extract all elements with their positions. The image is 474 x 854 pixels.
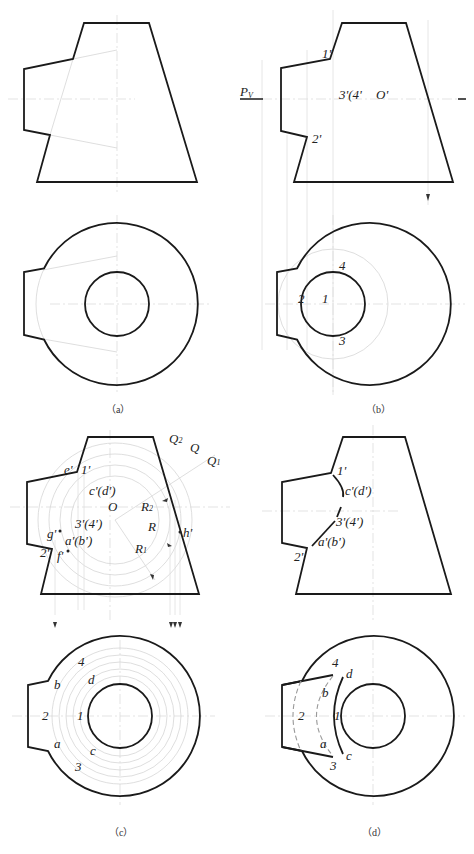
label-2: 2 bbox=[298, 291, 305, 306]
panel-d-front-view: 1' c'(d') 3'(4') a'(b') 2' bbox=[262, 425, 451, 620]
label-4: 4 bbox=[339, 258, 346, 273]
label-3-4-prime: 3'(4') bbox=[74, 516, 102, 531]
label-2: 2 bbox=[42, 708, 49, 723]
label-Q1: Q1 bbox=[207, 453, 220, 468]
label-f-prime: f' bbox=[57, 548, 64, 563]
label-1-prime: 1' bbox=[322, 46, 332, 61]
label-d: d bbox=[346, 666, 353, 681]
label-Q: Q bbox=[190, 440, 200, 455]
label-O-prime: O' bbox=[376, 87, 388, 102]
label-c-d-prime: c'(d') bbox=[89, 483, 116, 498]
label-3: 3 bbox=[338, 333, 346, 348]
label-O: O bbox=[108, 499, 118, 514]
arrow-down-icon bbox=[53, 622, 57, 628]
panel-b-front-view: 1' 2' 3'(4' O' PV bbox=[239, 10, 466, 395]
panel-b: 1' 2' 3'(4' O' PV 4 2 1 3 （b） bbox=[239, 10, 466, 415]
arrow-R-icon bbox=[167, 543, 172, 547]
label-b: b bbox=[322, 685, 329, 700]
label-R1: R1 bbox=[134, 541, 147, 556]
label-b: b bbox=[54, 677, 61, 692]
arrow-R2-icon bbox=[162, 498, 168, 502]
arrow-down-icon bbox=[426, 194, 430, 201]
arrow-R1-icon bbox=[150, 574, 154, 580]
label-a-b-prime: a'(b') bbox=[318, 534, 345, 549]
label-R: R bbox=[147, 519, 156, 534]
front-view-outline bbox=[282, 437, 451, 594]
panel-c: e' 1' c'(d') O R2 R R1 3'(4') g' a'(b') … bbox=[10, 430, 230, 838]
arrow-down-icon bbox=[178, 622, 182, 628]
panel-c-top-view: 4 b d 2 1 a c 3 bbox=[12, 622, 215, 805]
panel-b-top-view: 4 2 1 3 bbox=[265, 215, 465, 395]
label-3-4-prime: 3'(4') bbox=[335, 514, 363, 529]
label-e-prime: e' bbox=[64, 462, 73, 477]
label-c-d-prime: c'(d') bbox=[345, 483, 372, 498]
point-g bbox=[59, 530, 62, 533]
label-d: d bbox=[88, 672, 95, 687]
panel-d-top-view: 4 d b 2 1 a c 3 bbox=[265, 636, 465, 805]
front-view-outline bbox=[24, 23, 197, 182]
label-Q2: Q2 bbox=[169, 431, 182, 446]
label-a-b-prime: a'(b') bbox=[65, 533, 92, 548]
arrow-down-icon bbox=[173, 622, 177, 628]
label-g-prime: g' bbox=[47, 526, 57, 541]
label-Pv: PV bbox=[239, 84, 254, 100]
label-c: c bbox=[346, 748, 352, 763]
label-3: 3 bbox=[329, 758, 337, 773]
panel-c-front-view: e' 1' c'(d') O R2 R R1 3'(4') g' a'(b') … bbox=[10, 430, 230, 620]
label-c: c bbox=[90, 743, 96, 758]
caption-c: （c） bbox=[109, 827, 133, 838]
label-h-prime: h' bbox=[183, 525, 193, 540]
label-1-prime: 1' bbox=[337, 463, 347, 478]
label-2-prime: 2' bbox=[294, 549, 304, 564]
caption-b: （b） bbox=[366, 404, 391, 415]
label-1: 1 bbox=[77, 708, 84, 723]
label-2-prime: 2' bbox=[40, 545, 50, 560]
label-R2: R2 bbox=[140, 499, 153, 514]
point-f bbox=[67, 550, 70, 553]
arrow-down-icon bbox=[169, 622, 173, 628]
caption-a: （a） bbox=[106, 404, 130, 415]
label-3: 3 bbox=[74, 759, 82, 774]
label-1: 1 bbox=[322, 291, 329, 306]
panel-a-top-view bbox=[24, 215, 212, 395]
label-a: a bbox=[320, 736, 327, 751]
point-h bbox=[179, 531, 182, 534]
caption-d: （d） bbox=[362, 827, 387, 838]
panel-a-front-view bbox=[8, 15, 197, 195]
label-1-prime: 1' bbox=[81, 462, 91, 477]
panel-a: （a） bbox=[8, 15, 212, 415]
label-1: 1 bbox=[334, 708, 341, 723]
intersection-curve-upper bbox=[333, 475, 343, 497]
label-3-4-prime: 3'(4' bbox=[338, 87, 362, 102]
panel-d: 1' c'(d') 3'(4') a'(b') 2' 4 d b 2 1 a c… bbox=[262, 425, 465, 838]
label-2: 2 bbox=[298, 708, 305, 723]
projection-diagram: （a） 1' 2' 3'(4' O' PV 4 2 bbox=[0, 0, 474, 854]
label-a: a bbox=[54, 736, 61, 751]
radius-line bbox=[115, 455, 215, 520]
label-4: 4 bbox=[78, 654, 85, 669]
label-2-prime: 2' bbox=[312, 131, 322, 146]
label-4: 4 bbox=[332, 655, 339, 670]
